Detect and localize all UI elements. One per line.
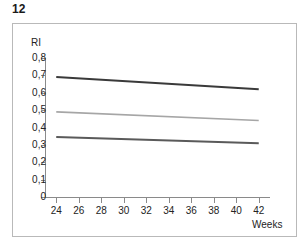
series-line-middle-line — [56, 112, 259, 121]
series-line-upper-line — [56, 77, 259, 89]
plot-frame: RI 00,10,20,30,40,50,60,70,8 24262830323… — [12, 23, 297, 237]
figure-number: 12 — [12, 2, 26, 16]
series-lines — [13, 24, 298, 238]
series-line-lower-line — [56, 137, 259, 143]
x-axis-title: Weeks — [252, 219, 282, 230]
plot-area: RI 00,10,20,30,40,50,60,70,8 24262830323… — [13, 24, 298, 238]
figure-container: 12 RI 00,10,20,30,40,50,60,70,8 24262830… — [0, 0, 305, 244]
